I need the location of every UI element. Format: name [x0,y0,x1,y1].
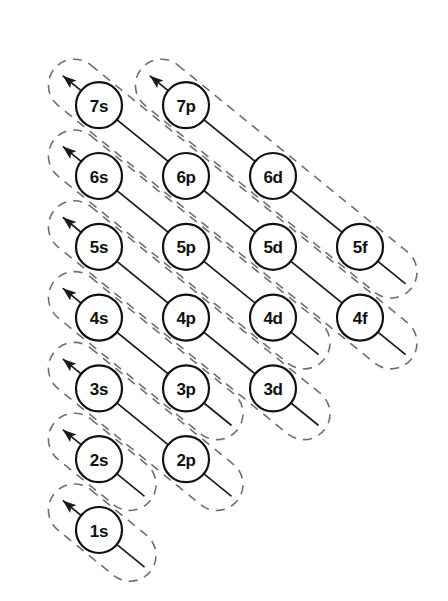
orbital-label-1s: 1s [90,522,108,541]
orbital-label-5p: 5p [176,238,195,257]
orbital-node-6d[interactable]: 6d [250,153,296,199]
orbital-label-5s: 5s [90,238,108,257]
orbital-label-4p: 4p [176,309,195,328]
orbital-node-4p[interactable]: 4p [163,295,209,341]
orbital-node-2s[interactable]: 2s [76,436,122,482]
orbital-label-2s: 2s [90,451,108,470]
orbital-label-3d: 3d [263,380,282,399]
orbital-label-4s: 4s [90,309,108,328]
orbital-label-2p: 2p [176,451,195,470]
orbital-label-3s: 3s [90,380,108,399]
orbital-label-4f: 4f [353,309,368,328]
orbital-node-3p[interactable]: 3p [163,365,209,411]
orbital-node-5d[interactable]: 5d [250,224,296,270]
orbital-label-6s: 6s [90,168,108,187]
orbital-node-5s[interactable]: 5s [76,224,122,270]
orbital-node-3d[interactable]: 3d [250,365,296,411]
orbital-node-6s[interactable]: 6s [76,153,122,199]
orbital-node-5f[interactable]: 5f [337,224,383,270]
orbital-label-7p: 7p [176,97,195,116]
orbital-node-4d[interactable]: 4d [250,295,296,341]
orbital-node-5p[interactable]: 5p [163,224,209,270]
orbital-node-1s[interactable]: 1s [76,507,122,553]
orbital-node-7p[interactable]: 7p [163,82,209,128]
orbital-label-6p: 6p [176,168,195,187]
orbital-label-6d: 6d [263,168,282,187]
orbital-node-2p[interactable]: 2p [163,436,209,482]
orbital-label-5f: 5f [353,238,368,257]
orbital-label-7s: 7s [90,97,108,116]
orbital-label-5d: 5d [263,238,282,257]
orbital-node-4s[interactable]: 4s [76,295,122,341]
orbital-node-6p[interactable]: 6p [163,153,209,199]
orbital-label-4d: 4d [263,309,282,328]
orbital-label-3p: 3p [176,380,195,399]
orbital-node-4f[interactable]: 4f [337,295,383,341]
orbital-node-3s[interactable]: 3s [76,365,122,411]
orbital-node-7s[interactable]: 7s [76,82,122,128]
aufbau-diagram: 7s7p6s6p6d5s5p5d5f4s4p4d4f3s3p3d2s2p1s [0,0,448,601]
